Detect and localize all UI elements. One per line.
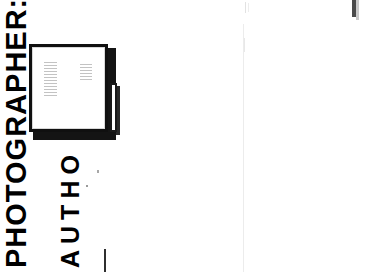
side-page bbox=[110, 83, 117, 132]
document-card bbox=[29, 44, 108, 132]
text-line bbox=[80, 76, 92, 77]
card-body-text-left bbox=[44, 62, 57, 98]
scan-speck-b bbox=[86, 185, 88, 187]
document-card-inner bbox=[32, 47, 105, 129]
text-line bbox=[80, 70, 92, 71]
text-line bbox=[44, 95, 57, 96]
text-line bbox=[44, 68, 57, 69]
corner-edge-bar-soft bbox=[356, 0, 359, 20]
page-edge-strip bbox=[0, 140, 4, 202]
scan-speck-a bbox=[97, 170, 99, 173]
text-line bbox=[44, 71, 57, 72]
text-line bbox=[80, 79, 92, 80]
text-line bbox=[44, 89, 57, 90]
scan-mark-bottom bbox=[104, 249, 106, 272]
text-line bbox=[44, 92, 57, 93]
photographer-label: PHOTOGRAPHER: bbox=[2, 0, 31, 268]
scanned-page-canvas: PHOTOGRAPHER: AUTHO bbox=[0, 0, 367, 272]
text-line bbox=[44, 80, 57, 81]
text-line bbox=[80, 73, 92, 74]
text-line bbox=[44, 77, 57, 78]
scan-mark-mid bbox=[244, 38, 245, 52]
text-line bbox=[44, 83, 57, 84]
vertical-scan-rule bbox=[243, 24, 244, 272]
author-label: AUTHO bbox=[58, 149, 83, 268]
text-line bbox=[44, 86, 57, 87]
scan-mark-top-b bbox=[248, 3, 249, 12]
text-line bbox=[80, 67, 92, 68]
text-line bbox=[44, 74, 57, 75]
scan-mark-top-a bbox=[245, 2, 246, 13]
card-body-text-right bbox=[80, 64, 92, 82]
text-line bbox=[44, 65, 57, 66]
text-line bbox=[44, 62, 57, 63]
text-line bbox=[80, 64, 92, 65]
